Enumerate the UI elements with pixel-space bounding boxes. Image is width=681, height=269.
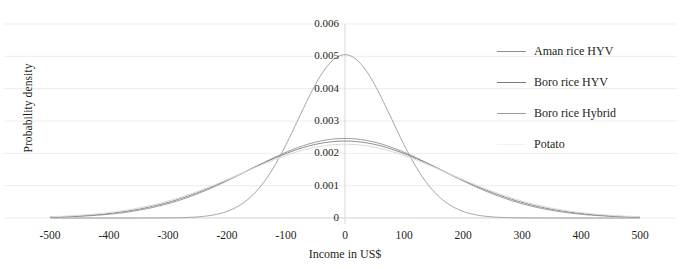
y-tick-label: 0 bbox=[293, 212, 339, 223]
legend-line-icon bbox=[497, 113, 526, 114]
y-tick-label: 0.004 bbox=[293, 83, 339, 94]
legend-line-icon bbox=[497, 144, 526, 145]
legend-item[interactable]: Boro rice Hybrid bbox=[497, 98, 677, 129]
x-tick-label: 0 bbox=[320, 229, 370, 241]
legend-item[interactable]: Aman rice HYV bbox=[497, 36, 677, 67]
x-tick-label: 100 bbox=[379, 229, 429, 241]
chart-figure: Probability density Income in US$ 00.001… bbox=[0, 0, 681, 269]
x-tick-label: 300 bbox=[497, 229, 547, 241]
y-tick-label: 0.005 bbox=[293, 50, 339, 61]
x-tick-label: -100 bbox=[261, 229, 311, 241]
legend-item[interactable]: Potato bbox=[497, 129, 677, 160]
x-tick-label: 200 bbox=[438, 229, 488, 241]
x-tick-label: -200 bbox=[202, 229, 252, 241]
chart-legend: Aman rice HYVBoro rice HYVBoro rice Hybr… bbox=[497, 36, 677, 160]
x-tick-label: -400 bbox=[84, 229, 134, 241]
y-tick-label: 0.006 bbox=[293, 18, 339, 29]
x-tick-label: 400 bbox=[556, 229, 606, 241]
x-tick-label: 500 bbox=[615, 229, 665, 241]
y-axis-title: Probability density bbox=[22, 28, 34, 188]
y-tick-label: 0.003 bbox=[293, 115, 339, 126]
x-tick-label: -500 bbox=[25, 229, 75, 241]
legend-label: Boro rice Hybrid bbox=[534, 106, 616, 121]
y-tick-label: 0.001 bbox=[293, 180, 339, 191]
legend-line-icon bbox=[497, 82, 526, 83]
x-tick-label: -300 bbox=[143, 229, 193, 241]
legend-line-icon bbox=[497, 51, 526, 52]
legend-label: Boro rice HYV bbox=[534, 75, 608, 90]
x-axis-title: Income in US$ bbox=[180, 247, 510, 262]
legend-label: Potato bbox=[534, 137, 565, 152]
y-tick-label: 0.002 bbox=[293, 147, 339, 158]
legend-label: Aman rice HYV bbox=[534, 44, 613, 59]
legend-item[interactable]: Boro rice HYV bbox=[497, 67, 677, 98]
